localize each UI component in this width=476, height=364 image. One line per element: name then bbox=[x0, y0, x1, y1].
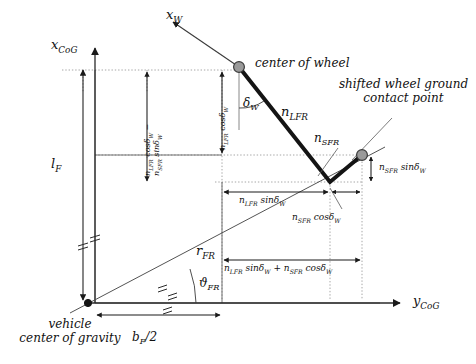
x-cog-axis-label: xCoG bbox=[51, 38, 77, 54]
n-lfr-label: nLFR bbox=[281, 105, 308, 121]
break-marks bbox=[78, 235, 177, 314]
wheel-center-node bbox=[234, 62, 245, 73]
diagram-vector-layer bbox=[0, 0, 476, 364]
x-wheel-axis bbox=[173, 22, 239, 67]
dim-label-n-sfr-cos: nSFR cosδW bbox=[292, 213, 340, 224]
r-fr-label: rFR bbox=[196, 244, 215, 260]
dim-label-n-lfr-sin: nLFR sinδW bbox=[239, 196, 286, 207]
dim-label-vert-difference-second-term: nSFR sinδW bbox=[153, 134, 163, 176]
theta-fr-arc bbox=[190, 269, 196, 303]
r-fr-ray bbox=[70, 147, 385, 313]
theta-fr-label: ϑFR bbox=[199, 277, 219, 292]
delta-w-label: δW bbox=[243, 97, 259, 112]
vehicle-cog-line2: center of gravity bbox=[6, 332, 134, 344]
cog-node bbox=[84, 299, 91, 306]
dim-label-n-lfr-cos: nLFR cosδW bbox=[219, 107, 229, 150]
n-sfr-label: nSFR bbox=[314, 132, 339, 147]
y-cog-axis-label: yCoG bbox=[413, 294, 439, 310]
vehicle-cog-line1: vehicle bbox=[6, 318, 134, 330]
center-of-wheel-label: center of wheel bbox=[255, 57, 350, 69]
contact-point-node bbox=[357, 150, 368, 161]
shifted-label-line1: shifted wheel ground bbox=[336, 78, 471, 90]
dim-label-sum: nLFR sinδW + nSFR cosδW bbox=[224, 264, 332, 275]
diagram-canvas: xCoG yCoG xW center of wheel shifted whe… bbox=[0, 0, 476, 364]
dim-label-n-sfr-sin: nSFR sinδW bbox=[379, 163, 426, 174]
l-f-label: lF bbox=[51, 157, 61, 173]
shifted-label-line2: contact point bbox=[336, 92, 471, 104]
shifted-contact-point-label: shifted wheel ground contact point bbox=[336, 78, 471, 104]
x-wheel-axis-label: xW bbox=[166, 8, 182, 24]
b-f-half-label: bF/2 bbox=[132, 331, 157, 346]
vehicle-cog-label: vehicle center of gravity bbox=[6, 318, 134, 344]
